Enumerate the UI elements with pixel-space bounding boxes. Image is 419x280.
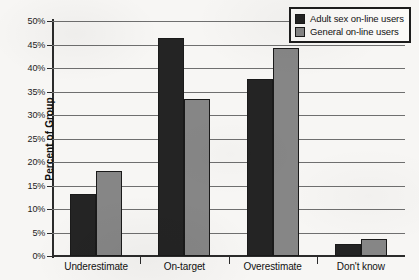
x-axis-category-label: Overestimate (243, 261, 301, 272)
x-axis-category-label: On-target (164, 261, 205, 272)
y-axis-tick-label: 35% (28, 87, 45, 97)
y-axis-tick-label: 10% (28, 204, 45, 214)
legend-swatch-icon-series-1 (295, 27, 305, 37)
bar-group (335, 21, 387, 256)
y-axis-tick (47, 68, 52, 69)
y-axis-tick-label: 15% (28, 181, 45, 191)
x-axis-category-label: Don't know (337, 261, 385, 272)
plot-area: 0%5%10%15%20%25%30%35%40%45%50% Percent … (52, 21, 405, 256)
legend-label-series-1: General on-line users (310, 26, 399, 37)
y-axis-tick-label: 45% (28, 40, 45, 50)
y-axis-tick-label: 40% (28, 63, 45, 73)
y-axis-title: Percent of Group (44, 97, 55, 180)
x-axis-tick (229, 257, 230, 264)
bar (70, 194, 96, 257)
bar (184, 99, 210, 256)
bar (361, 239, 387, 256)
y-axis-tick (47, 209, 52, 210)
bar-group (247, 21, 299, 256)
x-axis-tick (317, 257, 318, 264)
legend-label-series-0: Adult sex on-line users (310, 13, 404, 24)
legend: Adult sex on-line users General on-line … (289, 7, 411, 43)
bar (96, 171, 122, 256)
bar (335, 244, 361, 256)
legend-item-series-0: Adult sex on-line users (295, 12, 404, 25)
x-axis-tick (140, 257, 141, 264)
y-axis-tick-label: 20% (28, 157, 45, 167)
y-axis-tick (47, 92, 52, 93)
bar (247, 79, 273, 256)
bar-group (70, 21, 122, 256)
bar (273, 48, 299, 256)
y-axis-tick-label: 25% (28, 134, 45, 144)
y-axis-tick (47, 21, 52, 22)
bar (158, 38, 184, 256)
y-axis-tick (47, 186, 52, 187)
legend-swatch-icon-series-0 (295, 14, 305, 24)
y-axis-tick-label: 5% (32, 228, 45, 238)
x-axis-category-label: Underestimate (64, 261, 128, 272)
chart-figure: 0%5%10%15%20%25%30%35%40%45%50% Percent … (0, 0, 419, 280)
y-axis-tick (47, 45, 52, 46)
bar-group (158, 21, 210, 256)
y-axis-tick (47, 256, 52, 257)
y-axis-tick-label: 50% (28, 16, 45, 26)
y-axis-tick-label: 30% (28, 110, 45, 120)
y-axis-tick-label: 0% (32, 251, 45, 261)
y-axis-tick (47, 233, 52, 234)
legend-item-series-1: General on-line users (295, 25, 404, 38)
